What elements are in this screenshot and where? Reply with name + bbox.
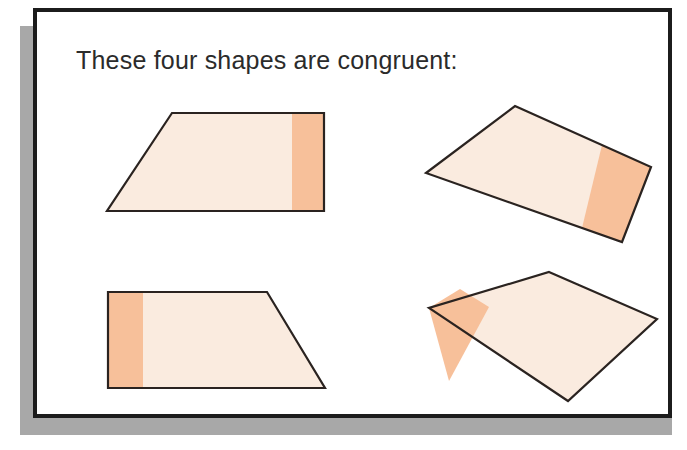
shape-3-group [108,292,325,388]
shape-1-orange-band [292,113,324,211]
card-content-area: These four shapes are congruent: [37,12,676,422]
shape-2-group [426,106,651,242]
shape-1-group [107,113,324,211]
congruent-shapes-figure [37,12,676,422]
shape-4-group [429,272,657,401]
shape-3-orange-band [108,292,143,388]
framed-illustration-card: These four shapes are congruent: [33,8,672,418]
worksheet-page: These four shapes are congruent: [0,0,687,450]
